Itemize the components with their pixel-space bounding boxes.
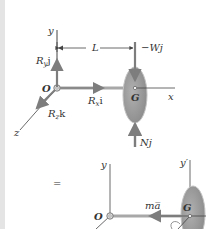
- normal-force-label: Nj: [139, 137, 152, 148]
- inertia-vector-label: ma̅: [145, 200, 160, 211]
- top-diagram: y L −Wj Ryj O Rxi G x Rzk z Nj: [13, 25, 175, 148]
- origin-label: O: [42, 83, 51, 94]
- origin-bottom-label: O: [94, 211, 103, 222]
- weight-label: −Wj: [141, 42, 163, 53]
- center-of-mass-point: [133, 86, 136, 89]
- reaction-z-label: Rzk: [47, 108, 66, 121]
- dimension-label: L: [91, 42, 99, 53]
- y-axis-label: y: [47, 25, 54, 36]
- y-axis-bottom-label: y: [100, 159, 107, 170]
- z-axis-label: z: [13, 127, 20, 138]
- center-of-mass-label: G: [131, 92, 140, 103]
- bottom-diagram: y y′ ma̅ G O: [94, 157, 206, 229]
- equals-sign: =: [53, 178, 61, 189]
- y-prime-axis-label: y′: [179, 157, 189, 168]
- x-axis-label: x: [168, 91, 174, 102]
- center-of-mass-bottom-label: G: [183, 202, 192, 213]
- free-body-diagram: y L −Wj Ryj O Rxi G x Rzk z Nj = y: [0, 0, 206, 229]
- reaction-y-label: Ryj: [35, 55, 51, 68]
- reaction-x-label: Rxi: [87, 95, 103, 108]
